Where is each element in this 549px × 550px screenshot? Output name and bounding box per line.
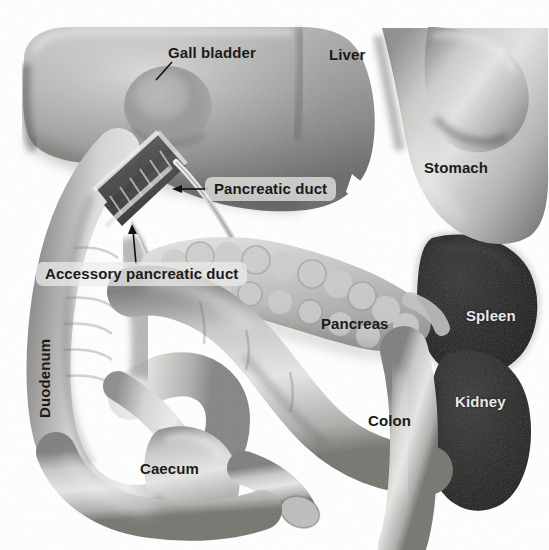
label-caecum: Caecum	[140, 461, 199, 476]
label-gall-bladder: Gall bladder	[168, 45, 256, 60]
organ-gall-bladder	[124, 66, 212, 146]
label-accessory-pancreatic-duct: Accessory pancreatic duct	[36, 262, 247, 286]
label-liver: Liver	[329, 47, 365, 62]
label-pancreas: Pancreas	[321, 316, 389, 331]
label-kidney: Kidney	[455, 394, 506, 409]
label-stomach: Stomach	[424, 160, 488, 175]
label-duodenum: Duodenum	[37, 339, 52, 418]
label-colon: Colon	[368, 413, 411, 428]
label-pancreatic-duct: Pancreatic duct	[205, 177, 336, 201]
anatomy-figure: Gall bladder Liver Stomach Pancreatic du…	[0, 0, 549, 550]
label-spleen: Spleen	[466, 308, 516, 323]
